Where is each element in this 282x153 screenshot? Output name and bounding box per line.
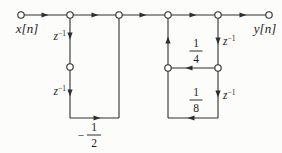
delay-label: z−1	[222, 34, 236, 48]
arrow-right-icon	[140, 12, 147, 17]
delay-label: z−1	[53, 84, 67, 98]
node	[18, 12, 24, 18]
arrow-up-icon	[165, 37, 170, 44]
node	[266, 12, 272, 18]
arrow-right-icon	[92, 12, 99, 17]
arrow-right-icon	[190, 12, 197, 17]
filter-flow-graph-figure: z−1z−1z−1z−1 −121418 x[n] y[n]	[0, 0, 282, 153]
fraction-denominator: 2	[91, 137, 97, 149]
node	[67, 64, 73, 70]
fraction-denominator: 4	[193, 53, 199, 65]
coefficient-layer: −121418	[78, 37, 203, 149]
arrow-down-icon	[215, 38, 220, 45]
node	[165, 12, 171, 18]
coefficient-one-eighth: 18	[190, 86, 203, 114]
arrow-left-icon	[188, 115, 195, 120]
node	[116, 12, 122, 18]
arrow-right-icon	[94, 115, 101, 120]
delay-label: z−1	[222, 88, 236, 102]
arrow-right-icon	[240, 12, 247, 17]
coefficient-minus-one-half: −12	[78, 121, 101, 149]
fraction-numerator: 1	[91, 121, 97, 133]
signal-flow-diagram: z−1z−1z−1z−1 −121418 x[n] y[n]	[0, 0, 282, 153]
fraction-numerator: 1	[193, 86, 199, 98]
arrow-down-icon	[67, 90, 72, 97]
arrow-down-icon	[215, 91, 220, 98]
output-signal-label: y[n]	[252, 21, 276, 36]
fraction-numerator: 1	[193, 37, 199, 49]
minus-sign: −	[78, 129, 85, 141]
node	[165, 65, 171, 71]
delay-label: z−1	[53, 29, 67, 43]
node	[67, 12, 73, 18]
delay-label-layer: z−1z−1z−1z−1	[53, 29, 236, 102]
input-signal-label: x[n]	[15, 21, 38, 36]
fraction-denominator: 8	[193, 102, 199, 114]
coefficient-one-quarter: 14	[190, 37, 203, 65]
arrow-left-icon	[186, 65, 193, 70]
arrow-right-icon	[42, 12, 49, 17]
node	[215, 12, 221, 18]
arrow-down-icon	[67, 33, 72, 40]
node	[215, 65, 221, 71]
